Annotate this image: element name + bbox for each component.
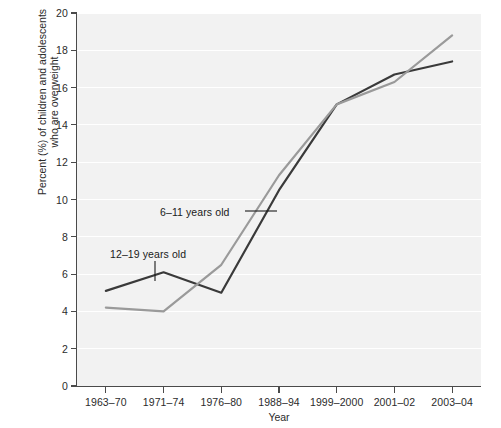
y-axis-tick-label: 6 bbox=[34, 268, 68, 280]
y-axis-title: Percent (%) of children and adolescents … bbox=[36, 0, 60, 227]
gridline bbox=[77, 348, 481, 349]
series-label-6-11: 6–11 years old bbox=[160, 206, 230, 218]
y-axis-tick-mark bbox=[71, 124, 77, 125]
chart-container: 02468101214161820 1963–701971–741976–801… bbox=[0, 0, 501, 428]
y-axis-tick-label: 0 bbox=[34, 380, 68, 392]
x-axis-tick-mark bbox=[163, 387, 164, 393]
y-axis-tick-mark bbox=[71, 311, 77, 312]
x-axis-tick-mark bbox=[221, 387, 222, 393]
y-axis-tick-mark bbox=[71, 162, 77, 163]
y-axis-tick-mark bbox=[71, 50, 77, 51]
y-axis-tick-mark bbox=[71, 348, 77, 349]
gridline bbox=[77, 13, 481, 14]
x-axis-title: Year bbox=[77, 411, 481, 423]
y-axis-tick-mark bbox=[71, 385, 77, 386]
gridline bbox=[77, 162, 481, 163]
y-axis-tick-mark bbox=[71, 87, 77, 88]
y-axis-tick-mark bbox=[71, 199, 77, 200]
x-axis-tick-mark bbox=[336, 387, 337, 393]
y-axis-tick-mark bbox=[71, 274, 77, 275]
y-axis-tick-label: 2 bbox=[34, 343, 68, 355]
x-axis-tick-mark bbox=[105, 387, 106, 393]
y-axis-tick-label: 4 bbox=[34, 305, 68, 317]
series-label-12-19: 12–19 years old bbox=[110, 248, 186, 260]
y-axis-tick-mark bbox=[71, 236, 77, 237]
x-axis-tick-label: 2003–04 bbox=[412, 396, 492, 408]
y-axis-title-line1: Percent (%) of children and adolescents bbox=[36, 9, 48, 195]
gridline bbox=[77, 87, 481, 88]
gridline bbox=[77, 124, 481, 125]
y-axis-title-line2: who are overweight bbox=[48, 0, 60, 227]
gridline bbox=[77, 311, 481, 312]
gridline bbox=[77, 50, 481, 51]
x-axis-tick-mark bbox=[452, 387, 453, 393]
x-axis-tick-mark bbox=[394, 387, 395, 393]
y-axis-tick-label: 8 bbox=[34, 231, 68, 243]
gridline bbox=[77, 199, 481, 200]
gridline bbox=[77, 274, 481, 275]
y-axis-tick-mark bbox=[71, 12, 77, 13]
gridline bbox=[77, 236, 481, 237]
x-axis-tick-mark bbox=[278, 387, 279, 393]
